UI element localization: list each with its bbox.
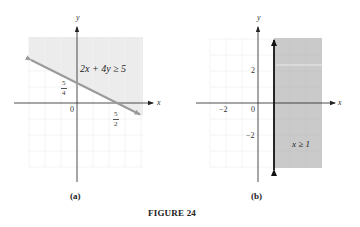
inequality-label-b: x ≥ 1 (292, 139, 310, 149)
x-intercept-label-a: 5 2 (113, 111, 119, 128)
origin-label-b: 0 (251, 106, 255, 114)
figure-canvas (0, 0, 360, 227)
y-axis-label-b: y (257, 14, 261, 22)
panel-b (196, 27, 335, 182)
inequality-label-a: 2x + 4y ≥ 5 (80, 63, 126, 74)
figure-title: FIGURE 24 (148, 208, 196, 218)
panel-a (14, 27, 153, 182)
panel-caption-a: (a) (70, 191, 81, 201)
x-axis-label-b: x (338, 99, 342, 107)
y-intercept-label-a: 5 4 (61, 80, 67, 97)
x-axis-label-a: x (157, 99, 161, 107)
y-tick-label-neg2-b: −2 (246, 132, 255, 140)
shaded-region-a (29, 37, 143, 116)
panel-caption-b: (b) (251, 191, 262, 201)
y-tick-label-2-b: 2 (251, 67, 255, 75)
x-tick-label-neg2-b: −2 (219, 106, 228, 114)
origin-label-a: 0 (70, 106, 74, 114)
y-axis-label-a: y (76, 14, 80, 22)
